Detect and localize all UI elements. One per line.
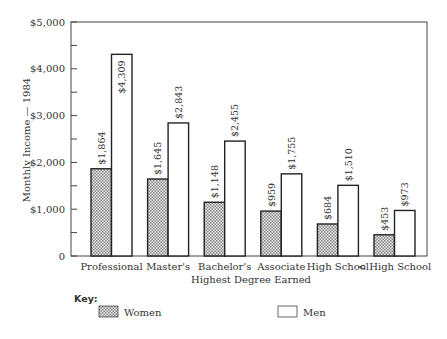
bar-men — [225, 141, 246, 256]
y-tick-label: $2,000 — [30, 157, 65, 168]
value-label: $2,455 — [229, 104, 240, 137]
y-axis-title: Monthly Income — 1984 — [21, 78, 32, 202]
y-tick-label: $3,000 — [30, 110, 65, 121]
legend: Key: Women Men — [74, 293, 326, 318]
bar-women — [374, 235, 395, 256]
y-axis: 0$1,000$2,000$3,000$4,000$5,000 — [30, 17, 77, 262]
value-label: $1,510 — [343, 148, 354, 181]
bar-women — [317, 224, 338, 256]
bar-men — [395, 210, 416, 256]
bar-women — [91, 169, 112, 256]
bar-women — [204, 202, 225, 256]
legend-label-women: Women — [124, 307, 162, 318]
value-label: $973 — [399, 182, 410, 206]
legend-title: Key: — [74, 293, 98, 304]
x-axis-title: Highest Degree Earned — [191, 274, 312, 285]
x-tick-label: Associate — [256, 261, 305, 272]
legend-label-men: Men — [303, 307, 326, 318]
value-label: $453 — [379, 207, 390, 231]
x-tick-label: Bachelor's — [198, 261, 251, 272]
legend-swatch-men — [278, 306, 297, 317]
value-label: $1,645 — [152, 142, 163, 175]
y-tick-label: $1,000 — [30, 204, 65, 215]
y-tick-label: 0 — [59, 251, 65, 262]
x-tick-label: Professional — [80, 261, 142, 272]
y-tick-label: $4,000 — [30, 63, 65, 74]
bar-chart: 0$1,000$2,000$3,000$4,000$5,000 $1,864$4… — [0, 0, 447, 339]
value-label: $684 — [322, 196, 333, 220]
value-label: $1,148 — [209, 165, 220, 198]
bar-men — [168, 123, 189, 256]
bar-men — [281, 174, 302, 256]
value-label: $1,864 — [96, 132, 107, 165]
legend-swatch-women — [99, 306, 118, 317]
y-tick-label: $5,000 — [30, 17, 65, 28]
x-tick-label: Master's — [146, 261, 190, 272]
value-label: $1,755 — [286, 137, 297, 170]
bar-women — [148, 179, 169, 256]
bar-men — [338, 185, 359, 256]
value-label: $4,309 — [116, 60, 127, 93]
bars: $1,864$4,309$1,645$2,843$1,148$2,455$959… — [91, 54, 415, 256]
bar-women — [261, 211, 282, 256]
x-tick-label: < High School — [358, 261, 432, 272]
x-axis: ProfessionalMaster'sBachelor'sAssociateH… — [80, 261, 431, 272]
value-label: $959 — [266, 183, 277, 207]
value-label: $2,843 — [173, 86, 184, 119]
